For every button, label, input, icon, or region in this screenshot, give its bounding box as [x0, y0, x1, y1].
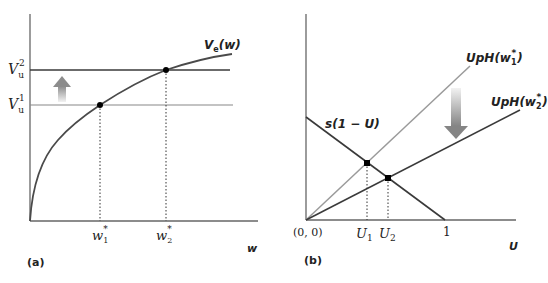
panel-a-x-axis-label: w [247, 242, 258, 255]
svg-text:U2: U2 [379, 226, 396, 243]
uph-w2-label: UpH(w [491, 95, 537, 109]
svg-text:Vu1: Vu1 [8, 93, 25, 115]
svg-text:UpH(w2*): UpH(w2*) [491, 92, 548, 111]
panel-a-label: (a) [27, 256, 44, 269]
svg-text:UpH(w1*): UpH(w1*) [466, 48, 523, 67]
up-arrow-icon [53, 76, 71, 102]
panel-b-label: (b) [304, 254, 322, 267]
equilibrium-point-1 [97, 102, 103, 108]
s-line-label: s(1 − U) [325, 117, 380, 131]
svg-text:w2*: w2* [156, 224, 172, 245]
one-tick-label: 1 [443, 225, 451, 239]
intersection-point-2 [385, 175, 391, 181]
w2-star-label: w [156, 228, 167, 243]
svg-text:U1: U1 [356, 226, 373, 243]
equilibrium-point-2 [163, 67, 169, 73]
figure-canvas: Vu2 Vu1 Ve(w) w1* w2* w (a) s(1 − U) U [0, 0, 548, 283]
svg-text:Vu2: Vu2 [8, 58, 25, 80]
panel-b: s(1 − U) UpH(w1*) UpH(w2*) (0, 0) U1 U2 … [293, 14, 548, 267]
panel-b-x-axis-label: U [509, 240, 518, 253]
panel-a: Vu2 Vu1 Ve(w) w1* w2* w (a) [8, 14, 258, 269]
svg-text:w1*: w1* [92, 224, 108, 245]
svg-text:Ve(w): Ve(w) [204, 38, 241, 54]
w1-star-label: w [92, 228, 103, 243]
down-arrow-icon [444, 88, 468, 139]
intersection-point-1 [364, 160, 370, 166]
uph-w1-label: UpH(w [466, 51, 512, 65]
origin-label: (0, 0) [293, 226, 323, 239]
s-one-minus-u-line [306, 117, 445, 220]
